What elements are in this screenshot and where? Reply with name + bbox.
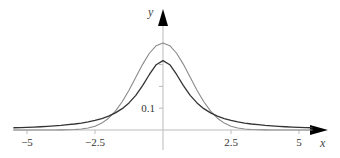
x-tick-label: −5 <box>21 136 33 148</box>
y-axis-label: y <box>147 5 154 19</box>
y-axis-arrow-icon <box>158 9 168 26</box>
chart: −5−2.52.55 0.1 x y <box>0 0 340 158</box>
x-tick-label: −2.5 <box>85 136 105 148</box>
x-axis-arrow-icon <box>310 125 328 135</box>
x-axis-label: x <box>319 136 326 150</box>
x-tick-label: 2.5 <box>224 136 238 148</box>
x-ticks: −5−2.52.55 <box>21 130 302 148</box>
y-ticks: 0.1 <box>141 65 163 115</box>
x-tick-label: 5 <box>296 136 302 148</box>
y-tick-label: 0.1 <box>141 102 155 114</box>
